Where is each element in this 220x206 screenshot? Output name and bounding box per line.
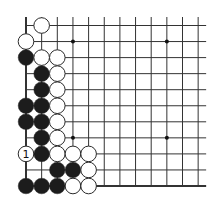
white-stone [50,114,66,130]
white-stone [34,18,50,34]
white-stone [50,146,66,162]
black-stone [18,178,34,194]
black-stone [18,50,34,66]
go-board: 1 [0,0,220,206]
white-stone [81,178,97,194]
star-point [71,40,75,44]
black-stone [34,130,50,146]
white-stone [50,66,66,82]
black-stone [18,98,34,114]
white-stone [18,34,34,50]
black-stone [18,114,34,130]
white-stone [65,178,81,194]
black-stone [34,98,50,114]
black-stone [65,162,81,178]
white-stone [65,146,81,162]
move-number: 1 [23,148,30,161]
white-stone [50,82,66,98]
black-stone [34,82,50,98]
black-stone [34,66,50,82]
black-stone [50,178,66,194]
white-stone: 1 [18,146,34,162]
star-point [165,136,169,140]
star-point [165,40,169,44]
white-stone [81,146,97,162]
black-stone [34,146,50,162]
white-stone [34,50,50,66]
white-stone [81,162,97,178]
white-stone [50,130,66,146]
black-stone [50,162,66,178]
black-stone [34,178,50,194]
black-stone [34,114,50,130]
white-stone [50,98,66,114]
star-point [71,136,75,140]
white-stone [50,50,66,66]
